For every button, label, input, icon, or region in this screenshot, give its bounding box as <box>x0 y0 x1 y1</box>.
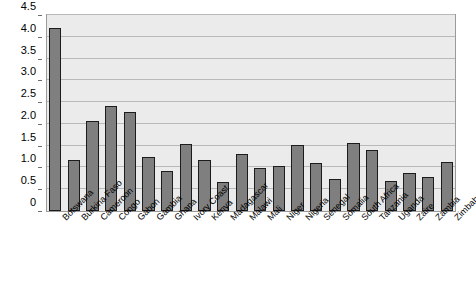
y-tick-label: 2.0 <box>21 110 36 120</box>
y-tick-mark <box>38 167 42 168</box>
y-tick-label: 2.5 <box>21 88 36 98</box>
x-tick-label: Burkina Faso <box>80 216 86 222</box>
x-tick-label: Tanzania <box>378 216 384 222</box>
y-tick-mark <box>38 124 42 125</box>
y-tick-mark <box>38 59 42 60</box>
y-tick-label: 4.0 <box>21 23 36 33</box>
x-tick-label: Zaire <box>415 216 421 222</box>
x-tick-label: Kenya <box>210 216 216 222</box>
y-tick-mark <box>38 211 42 212</box>
x-tick-label: Zambia <box>434 216 440 222</box>
y-tick-label: 0.5 <box>21 175 36 185</box>
y-tick-mark <box>38 102 42 103</box>
x-tick-label: Mali <box>266 216 272 222</box>
y-tick-label: 0 <box>30 197 36 207</box>
y-tick-label: 3.0 <box>21 66 36 76</box>
x-tick-label: Somalia <box>341 216 347 222</box>
x-tick-label: Cameroon <box>99 216 105 222</box>
x-axis: BotswanaBurkina FasoCameroonCongoGabonGa… <box>46 212 476 282</box>
x-tick-label: South Africa <box>360 216 366 222</box>
x-tick-label: Madagascar <box>229 216 235 222</box>
y-tick-mark <box>38 80 42 81</box>
x-tick-label: Zimbabwe <box>453 216 459 222</box>
x-tick-label: Senegal <box>322 216 328 222</box>
x-tick-label: Ghana <box>173 216 179 222</box>
x-tick-label: Gambia <box>155 216 161 222</box>
y-tick-label: 3.5 <box>21 45 36 55</box>
y-tick-mark <box>38 189 42 190</box>
x-tick-label: Ivory Coast <box>192 216 198 222</box>
y-tick-label: 1.5 <box>21 132 36 142</box>
x-tick-label: Malawi <box>248 216 254 222</box>
x-tick-label: Congo <box>117 216 123 222</box>
y-tick-label: 1.0 <box>21 153 36 163</box>
x-tick-label: Niger <box>285 216 291 222</box>
y-axis: 00.51.01.52.02.53.03.54.04.5 <box>0 14 42 212</box>
x-tick-label: Nigeria <box>304 216 310 222</box>
x-tick-label: Botswana <box>61 216 67 222</box>
y-tick-mark <box>38 15 42 16</box>
y-tick-mark <box>38 146 42 147</box>
y-tick-label: 4.5 <box>21 1 36 11</box>
bar <box>49 28 61 211</box>
bar-chart: 00.51.01.52.02.53.03.54.04.5 BotswanaBur… <box>0 0 476 282</box>
y-tick-mark <box>38 37 42 38</box>
x-tick-label: Uganda <box>397 216 403 222</box>
x-tick-label: Gabon <box>136 216 142 222</box>
